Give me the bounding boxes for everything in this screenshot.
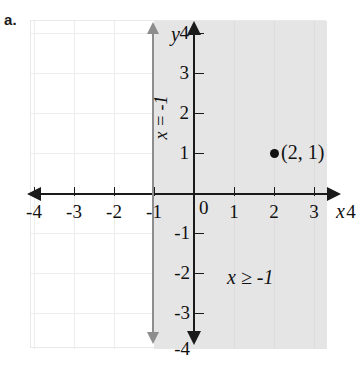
- x-tick-label: 2: [269, 201, 279, 223]
- gridline-vertical: [34, 21, 35, 349]
- x-tick-label: -3: [66, 201, 82, 223]
- y-tick: [195, 233, 204, 234]
- plotted-point-label: (2, 1): [281, 141, 324, 164]
- x-tick: [34, 187, 35, 196]
- y-tick: [195, 33, 204, 34]
- x-tick: [234, 187, 235, 196]
- origin-label: 0: [199, 197, 209, 219]
- x-tick-label: 1: [229, 201, 239, 223]
- x-axis: [39, 193, 331, 195]
- gridline-vertical: [234, 21, 235, 349]
- y-tick-label: 2: [169, 102, 189, 124]
- y-tick-label: -1: [164, 222, 190, 244]
- boundary-down-arrow-icon: [147, 332, 159, 344]
- y-tick: [195, 153, 204, 154]
- gridline-vertical: [114, 21, 115, 349]
- x-axis-right-arrow-icon: [327, 187, 341, 201]
- x-tick: [314, 187, 315, 196]
- plotted-point-marker: [270, 149, 279, 158]
- y-tick-label: -4: [164, 338, 190, 360]
- y-tick-label: 3: [169, 62, 189, 84]
- y-tick: [195, 73, 204, 74]
- x-axis-label: x: [336, 200, 345, 223]
- y-tick: [195, 273, 204, 274]
- y-tick-label: 1: [169, 142, 189, 164]
- x-tick-label: 4: [346, 201, 356, 223]
- x-tick: [274, 187, 275, 196]
- x-tick: [154, 187, 155, 196]
- y-axis: [193, 33, 195, 333]
- x-tick-label: -4: [26, 201, 42, 223]
- x-tick-label: -1: [146, 201, 162, 223]
- x-tick-label: -2: [106, 201, 122, 223]
- y-tick: [195, 313, 204, 314]
- part-label: a.: [4, 11, 17, 28]
- boundary-line-x-equals-minus-1: [152, 33, 154, 333]
- boundary-equation-label: x = -1: [151, 95, 172, 139]
- y-tick-label: -2: [164, 262, 190, 284]
- inequality-annotation: x ≥ -1: [227, 266, 274, 289]
- x-tick: [114, 187, 115, 196]
- figure-panel: -4 -3 -2 -1 1 2 3 4 0 4 3 2 1 -1 -2 -3 -…: [30, 20, 326, 348]
- y-tick: [195, 113, 204, 114]
- boundary-up-arrow-icon: [147, 22, 159, 34]
- y-axis-label: y: [171, 23, 180, 46]
- x-tick: [74, 187, 75, 196]
- x-tick-label: 3: [309, 201, 319, 223]
- gridline-vertical: [274, 21, 275, 349]
- coordinate-plane: -4 -3 -2 -1 1 2 3 4 0 4 3 2 1 -1 -2 -3 -…: [31, 21, 327, 349]
- gridline-vertical: [74, 21, 75, 349]
- y-tick-label: -3: [164, 302, 190, 324]
- gridline-vertical: [314, 21, 315, 349]
